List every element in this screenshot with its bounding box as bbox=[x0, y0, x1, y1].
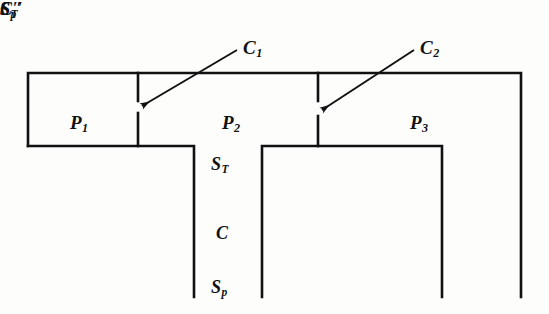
side-label-sp-subscript: p bbox=[222, 286, 228, 298]
side-label-sp-prime: Sp′ bbox=[0, 0, 21, 21]
callout-arrow-c1 bbox=[142, 50, 237, 106]
inner-well-outline bbox=[262, 146, 442, 297]
callout-label-c2-subscript: 2 bbox=[433, 46, 439, 60]
side-label-st-subscript: T bbox=[222, 163, 229, 175]
figure-root: P1 P2 P3 C1 C2 ST C Sp ST′ C′ Sp′ bbox=[0, 0, 549, 314]
region-label-p1-base: P bbox=[70, 112, 82, 133]
callout-label-c1-subscript: 1 bbox=[256, 46, 262, 60]
region-label-p2-subscript: 2 bbox=[234, 121, 240, 135]
region-label-p3-base: P bbox=[410, 112, 422, 133]
side-label-sp-prime-subscript: p bbox=[11, 8, 17, 20]
partition-diagram bbox=[0, 0, 549, 314]
side-label-c: C bbox=[216, 224, 229, 245]
callout-label-c1: C1 bbox=[243, 38, 262, 60]
side-label-sp-prime-mark: ′ bbox=[17, 0, 22, 17]
region-label-p3-subscript: 3 bbox=[422, 121, 428, 135]
region-label-p1: P1 bbox=[70, 113, 88, 135]
callout-label-c1-base: C bbox=[243, 37, 256, 58]
outer-outline bbox=[28, 73, 521, 297]
callout-label-c2: C2 bbox=[420, 38, 439, 60]
side-label-sp: Sp bbox=[211, 278, 228, 299]
side-label-sp-prime-base: S bbox=[0, 0, 10, 19]
region-label-p1-subscript: 1 bbox=[82, 121, 88, 135]
p1-box-bottom-and-left-drop bbox=[28, 146, 194, 297]
side-label-sp-base: S bbox=[211, 277, 221, 297]
side-label-st: ST bbox=[211, 155, 229, 176]
callout-arrow-c2 bbox=[322, 50, 414, 110]
region-label-p3: P3 bbox=[410, 113, 428, 135]
callout-label-c2-base: C bbox=[420, 37, 433, 58]
region-label-p2: P2 bbox=[222, 113, 240, 135]
side-label-c-base: C bbox=[216, 223, 228, 243]
region-label-p2-base: P bbox=[222, 112, 234, 133]
side-label-st-base: S bbox=[211, 154, 221, 174]
